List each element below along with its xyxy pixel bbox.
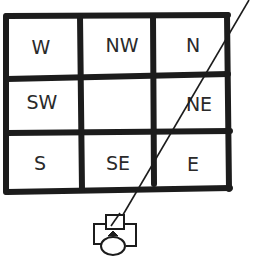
cell-s: S bbox=[34, 152, 46, 174]
person-at-desk-icon bbox=[94, 213, 136, 255]
cell-n: N bbox=[186, 34, 200, 56]
cell-e: E bbox=[187, 153, 199, 175]
cell-sw: SW bbox=[27, 91, 58, 113]
cell-ne: NE bbox=[186, 93, 212, 115]
cell-se: SE bbox=[106, 152, 130, 174]
cell-w: W bbox=[32, 36, 51, 58]
cell-nw: NW bbox=[106, 34, 139, 56]
direction-grid-diagram: W NW N SW NE S SE E bbox=[0, 0, 254, 257]
